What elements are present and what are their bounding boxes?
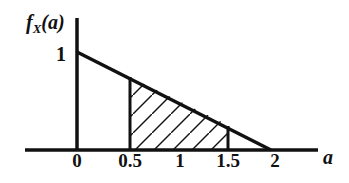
pdf-chart: fX(a) 1 0 0.5 1 1.5 2 a (0, 0, 349, 183)
x-tick-0: 0 (72, 150, 82, 171)
x-tick-1-5: 1.5 (216, 150, 240, 171)
x-tick-0-5: 0.5 (118, 150, 142, 171)
x-tick-2: 2 (270, 150, 280, 171)
x-tick-1: 1 (175, 150, 185, 171)
shaded-region (130, 70, 230, 152)
x-axis-label: a (323, 146, 333, 168)
y-tick-1: 1 (56, 43, 66, 65)
y-axis-label: fX(a) (26, 11, 65, 36)
